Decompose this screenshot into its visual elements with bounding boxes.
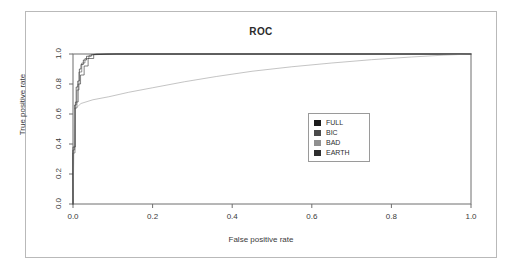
x-tick-label: 0.2 xyxy=(141,212,165,221)
legend-label: BAD xyxy=(326,138,340,148)
x-tick-label: 0.4 xyxy=(220,212,244,221)
legend-item-bad: BAD xyxy=(314,138,364,148)
legend-swatch-icon xyxy=(314,150,321,156)
x-axis-title: False positive rate xyxy=(0,235,522,244)
x-tick-label: 0.0 xyxy=(61,212,85,221)
y-tick-label: 0.8 xyxy=(54,74,63,94)
x-tick-label: 0.8 xyxy=(379,212,403,221)
legend-label: FULL xyxy=(326,118,343,128)
legend-label: EARTH xyxy=(326,148,350,158)
legend-item-bic: BIC xyxy=(314,128,364,138)
legend-item-full: FULL xyxy=(314,118,364,128)
legend-swatch-icon xyxy=(314,120,321,126)
roc-plot-svg xyxy=(0,0,522,274)
legend-swatch-icon xyxy=(314,140,321,146)
legend-swatch-icon xyxy=(314,130,321,136)
y-tick-label: 0.4 xyxy=(54,134,63,154)
roc-chart-screenshot: ROC True positive rate False positive ra… xyxy=(0,0,522,274)
legend-label: BIC xyxy=(326,128,338,138)
x-tick-label: 0.6 xyxy=(300,212,324,221)
legend: FULL BIC BAD EARTH xyxy=(308,113,370,162)
y-tick-label: 1.0 xyxy=(54,44,63,64)
y-tick-label: 0.0 xyxy=(54,194,63,214)
y-tick-label: 0.6 xyxy=(54,104,63,124)
y-tick-label: 0.2 xyxy=(54,164,63,184)
plot-area: ROC True positive rate False positive ra… xyxy=(0,0,522,274)
legend-item-earth: EARTH xyxy=(314,148,364,158)
x-tick-label: 1.0 xyxy=(459,212,483,221)
y-axis-title: True positive rate xyxy=(18,45,27,165)
